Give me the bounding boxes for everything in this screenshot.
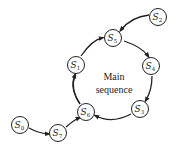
node-subscript: 1 bbox=[77, 65, 81, 71]
node-s3: S 3 bbox=[132, 101, 149, 118]
node-letter: S bbox=[145, 61, 151, 71]
edge-s3-s6 bbox=[96, 114, 131, 120]
node-subscript: 6 bbox=[87, 112, 91, 118]
center-label-line2: sequence bbox=[96, 84, 133, 95]
edge-s1-s5 bbox=[81, 38, 102, 56]
node-subscript: 7 bbox=[59, 133, 63, 139]
node-letter: S bbox=[134, 104, 140, 114]
node-subscript: 5 bbox=[114, 38, 118, 44]
edge-s2-s5 bbox=[121, 15, 149, 30]
node-letter: S bbox=[152, 12, 158, 22]
node-s5: S 5 bbox=[105, 30, 122, 47]
node-subscript: 3 bbox=[141, 109, 145, 115]
edge-s4-s3 bbox=[146, 76, 152, 100]
center-label: Main sequence bbox=[96, 71, 133, 95]
node-s7: S 7 bbox=[50, 125, 67, 142]
node-s0: S 0 bbox=[12, 117, 29, 134]
edge-s7-s6 bbox=[66, 118, 79, 127]
node-letter: S bbox=[52, 128, 58, 138]
node-letter: S bbox=[107, 33, 113, 43]
edge-s0-s7 bbox=[29, 128, 48, 134]
center-label-line1: Main bbox=[103, 71, 124, 82]
node-s6: S 6 bbox=[78, 104, 95, 121]
node-s1: S 1 bbox=[68, 57, 85, 74]
node-subscript: 2 bbox=[159, 17, 163, 23]
edge-s6-s1-head bbox=[73, 75, 80, 104]
node-letter: S bbox=[70, 60, 76, 70]
node-subscript: 4 bbox=[152, 66, 156, 72]
edge-s5-s4 bbox=[124, 41, 148, 56]
node-subscript: 0 bbox=[21, 125, 25, 131]
node-letter: S bbox=[14, 120, 20, 130]
node-letter: S bbox=[80, 107, 86, 117]
state-diagram: Main sequence S 0 S 7 S 6 S 1 S 5 S 2 S … bbox=[0, 0, 176, 153]
node-s4: S 4 bbox=[143, 58, 160, 75]
node-s2: S 2 bbox=[150, 9, 167, 26]
